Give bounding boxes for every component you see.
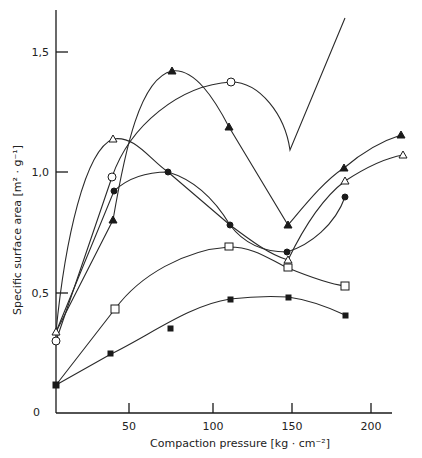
marker-open-square	[341, 282, 349, 290]
marker-filled-square	[286, 295, 291, 300]
marker-open-circle	[52, 337, 60, 345]
marker-filled-square	[168, 326, 173, 331]
curves	[56, 18, 403, 385]
y-tick-label: 1,0	[32, 166, 50, 179]
curve-open-triangle	[56, 139, 403, 332]
marker-open-square	[225, 243, 233, 250]
y-tick-label: 1,5	[32, 46, 50, 59]
marker-filled-circle	[227, 222, 233, 228]
marker-open-square	[111, 305, 119, 313]
x-axis-title: Compaction pressure [kg · cm⁻²]	[150, 437, 330, 450]
x-tick-label: 150	[282, 420, 303, 433]
marker-filled-circle	[111, 188, 117, 194]
chart: 0 0,5 1,0 1,5 50 100 150 200 Compaction …	[0, 0, 422, 458]
x-tick-label: 50	[122, 420, 136, 433]
marker-open-square	[284, 264, 292, 271]
marker-open-triangle	[399, 151, 407, 158]
y-axis-title: Specific surface area [m² · g⁻¹]	[11, 145, 24, 315]
marker-filled-square	[108, 351, 113, 356]
x-tick-label: 100	[203, 420, 224, 433]
marker-filled-triangle	[397, 131, 405, 138]
x-tick-labels: 50 100 150 200	[122, 420, 382, 433]
axes	[56, 10, 392, 413]
marker-filled-triangle	[109, 216, 117, 223]
curve-open-square	[56, 247, 345, 385]
marker-filled-circle	[284, 249, 290, 255]
marker-filled-circle	[165, 169, 171, 175]
curve-filled-triangle	[56, 71, 401, 332]
x-tick-label: 200	[361, 420, 382, 433]
marker-open-circle	[227, 78, 235, 86]
marker-filled-square	[53, 382, 59, 388]
curve-open-circle	[56, 18, 345, 341]
marker-filled-square	[343, 313, 348, 318]
marker-filled-square	[228, 297, 233, 302]
y-tick-labels: 0 0,5 1,0 1,5	[32, 46, 50, 419]
marker-open-circle	[108, 173, 116, 181]
marker-filled-circle	[342, 194, 348, 200]
marker-open-triangle	[341, 177, 349, 184]
curve-filled-square	[56, 296, 345, 385]
y-tick-label: 0,5	[32, 287, 50, 300]
y-tick-label: 0	[33, 406, 40, 419]
markers	[52, 67, 407, 388]
marker-filled-triangle	[225, 123, 233, 130]
